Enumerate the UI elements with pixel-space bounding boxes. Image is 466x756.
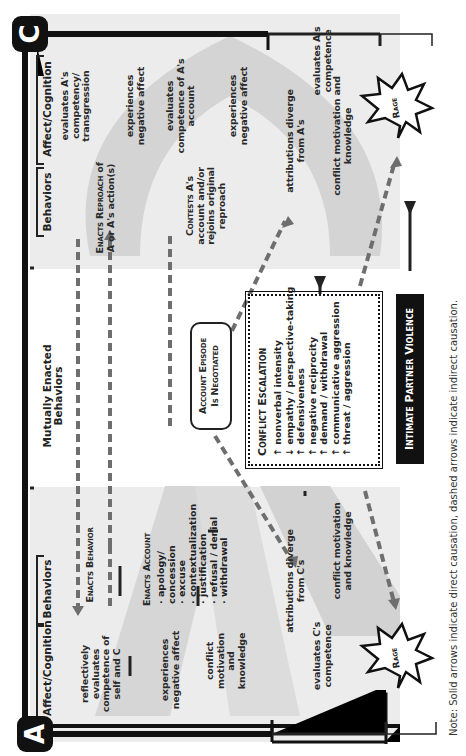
escalation-item: ↑ negative reciprocity — [307, 304, 319, 456]
account-episode-label: Account Episode — [198, 324, 209, 428]
escalation-item: ↑ demand / withdrawal — [318, 304, 330, 456]
escalation-item: ↓ empathy / perspective-taking — [284, 304, 296, 456]
escalation-list: ↑ nonverbal intensity ↓ empathy / perspe… — [272, 304, 353, 456]
negotiated-label: Is Negotiated — [210, 324, 221, 428]
escalation-item: ↑ nonverbal intensity — [272, 304, 284, 456]
conflict-escalation-title: Conflict Escalation — [256, 304, 269, 456]
escalation-item: ↑ defensiveness — [295, 304, 307, 456]
diagram-canvas: A C Affect/Cognition Behaviors Mutually … — [0, 0, 466, 756]
escalation-item: ↑ communicative aggression — [330, 304, 342, 456]
legend-note: Note: Solid arrows indicate direct causa… — [448, 300, 459, 736]
escalation-item: ↑ threat / aggression — [341, 304, 353, 456]
conflict-escalation-box: Conflict Escalation ↑ nonverbal intensit… — [248, 294, 380, 466]
intimate-partner-violence-box: Intimate Partner Violence — [396, 294, 424, 464]
account-episode-box: Account Episode Is Negotiated — [190, 322, 232, 430]
